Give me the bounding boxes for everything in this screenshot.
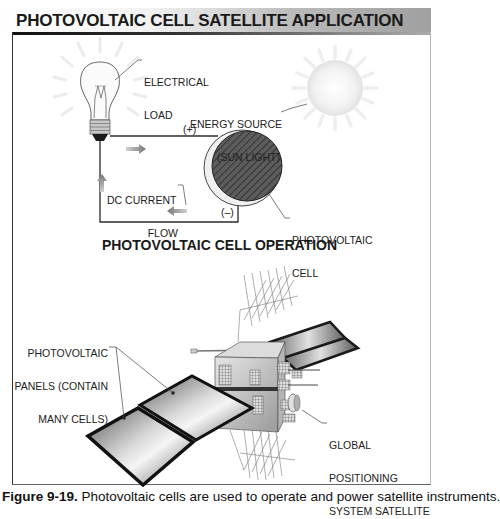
label-line: PANELS (CONTAIN [10,381,108,392]
sun-icon [293,46,377,130]
label-line: PHOTOVOLTAIC [10,348,108,359]
label-line: ENERGY SOURCE [190,119,280,130]
gps-leader-line [302,410,327,423]
positive-terminal-label: (+) [183,124,196,135]
label-line: (SUN LIGHT) [190,152,280,163]
label-line: GLOBAL [329,440,430,451]
label-line: MANY CELLS) [10,414,108,425]
label-line: CELL [292,268,373,279]
source-leader-line [281,104,307,112]
operation-subtitle: PHOTOVOLTAIC CELL OPERATION [0,237,439,253]
photovoltaic-panels-label: PHOTOVOLTAIC PANELS (CONTAIN MANY CELLS) [10,326,108,436]
caption-text: Photovoltaic cells are used to operate a… [82,489,500,504]
satellite-icon [88,266,358,485]
label-line: POSITIONING [329,473,430,484]
figure-caption: Figure 9-19. Photovoltaic cells are used… [2,489,500,504]
cell-leader-line [269,194,290,218]
light-bulb-icon [54,38,146,141]
label-line: SYSTEM SATELLITE [329,506,430,517]
label-line: DC CURRENT [98,195,178,206]
energy-source-label: ENERGY SOURCE (SUN LIGHT) [190,97,280,174]
figure-number: Figure 9-19. [2,489,78,504]
label-line: ELECTRICAL [144,77,209,88]
flow-leader-line [178,185,186,205]
negative-terminal-label: (–) [221,207,234,218]
